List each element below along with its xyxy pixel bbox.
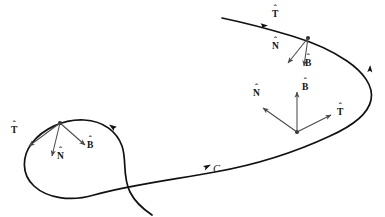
frenet-diagram-canvas	[0, 0, 385, 217]
hat-accent-icon: ˆ	[274, 36, 277, 45]
frame-middle-normal-arrow	[263, 108, 297, 132]
frame-upper-right-normal-label: ˆN	[272, 42, 279, 52]
space-curve-c	[24, 18, 371, 215]
frame-upper-right-tangent-label: ˆT	[272, 10, 278, 20]
hat-accent-icon: ˆ	[339, 102, 342, 111]
frame-left-binormal-arrow	[60, 123, 85, 145]
hat-accent-icon: ˆ	[307, 53, 310, 62]
hat-accent-icon: ˆ	[13, 120, 16, 129]
frame-left-normal-label: ˆN	[57, 152, 64, 162]
frame-middle-normal-label: ˆN	[253, 89, 260, 99]
hat-accent-icon: ˆ	[59, 146, 62, 155]
frame-left-binormal-label: ˆB	[87, 141, 93, 151]
space-curve-group	[24, 18, 372, 215]
frame-middle-binormal-label: ˆB	[302, 83, 308, 93]
frame-middle-group	[263, 92, 331, 134]
arrow-right-bend-icon	[367, 65, 372, 73]
curve-direction-markers	[109, 23, 372, 170]
hat-accent-icon: ˆ	[274, 4, 277, 13]
frenet-frame-figure: ˆT ˆN ˆB ˆN ˆB ˆT ˆT ˆN ˆB C	[0, 0, 385, 217]
curve-label-c: C	[213, 164, 220, 175]
hat-accent-icon: ˆ	[304, 77, 307, 86]
frame-middle-tangent-label: ˆT	[337, 108, 343, 118]
frame-middle-tangent-arrow	[297, 115, 331, 132]
arrow-lower-mid-icon	[203, 165, 211, 171]
hat-accent-icon: ˆ	[255, 83, 258, 92]
hat-accent-icon: ˆ	[89, 135, 92, 144]
frame-upper-right-binormal-label: ˆB	[305, 59, 311, 69]
frame-left-tangent-label: ˆT	[11, 126, 17, 136]
